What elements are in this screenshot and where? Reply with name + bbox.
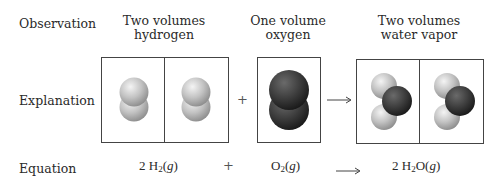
row-label-observation: Observation [19, 16, 96, 31]
h2o-state: (g) [425, 158, 440, 173]
row-label-equation: Equation [19, 161, 76, 176]
equation-term-hydrogen: 2 H2(g) [139, 158, 178, 174]
header-hydrogen-line2: hydrogen [114, 28, 214, 42]
header-hydrogen: Two volumes hydrogen [114, 14, 214, 42]
water-molecule-icon [430, 72, 478, 134]
h2-state: (g) [163, 158, 178, 173]
o2-state: (g) [285, 158, 300, 173]
header-water-line2: water vapor [369, 28, 469, 42]
header-water-line1: Two volumes [369, 14, 469, 28]
arrow-icon [327, 95, 353, 105]
hydrogen-molecule-icon [118, 76, 150, 124]
water-molecule-icon [367, 72, 415, 134]
header-oxygen-line1: One volume [238, 14, 338, 28]
equation-arrow-icon [336, 166, 362, 176]
equation-term-oxygen: O2(g) [271, 158, 300, 174]
water-box-divider [419, 60, 420, 143]
h2-coef: 2 H [139, 158, 158, 173]
hydrogen-molecule-icon [180, 76, 212, 124]
plus-sign: + [237, 92, 248, 107]
oxygen-molecule-icon [268, 70, 310, 132]
header-oxygen-line2: oxygen [238, 28, 338, 42]
h2o-o: O [416, 158, 425, 173]
water-vapor-box [356, 59, 484, 144]
row-label-explanation: Explanation [19, 93, 95, 108]
equation-plus: + [223, 158, 234, 173]
hydrogen-box [101, 57, 229, 143]
equation-term-water: 2 H2O(g) [392, 158, 440, 174]
oxygen-box [257, 57, 321, 143]
header-oxygen: One volume oxygen [238, 14, 338, 42]
hydrogen-box-divider [164, 58, 165, 142]
h2o-coef: 2 H [392, 158, 411, 173]
header-hydrogen-line1: Two volumes [114, 14, 214, 28]
header-water-vapor: Two volumes water vapor [369, 14, 469, 42]
o2-coef: O [271, 158, 280, 173]
